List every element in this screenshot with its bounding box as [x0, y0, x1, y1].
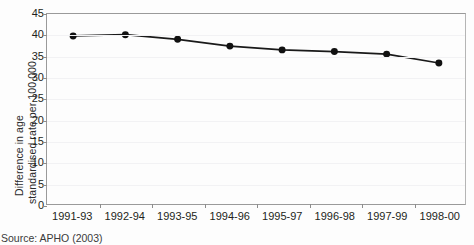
y-tick-mark — [43, 142, 47, 143]
y-tick-label: 25 — [0, 93, 44, 104]
y-tick-label: 15 — [0, 136, 44, 147]
x-tick-mark — [100, 204, 101, 208]
x-tick-label: 1995-97 — [262, 210, 302, 223]
x-tick-mark — [205, 204, 206, 208]
gridline — [47, 35, 465, 36]
x-tick-label: 1993-95 — [157, 210, 197, 223]
y-tick-mark — [43, 78, 47, 79]
chart-figure: Difference in age standardised rate per … — [0, 0, 474, 245]
x-tick-mark — [152, 204, 153, 208]
x-tick-label: 1991-93 — [52, 210, 92, 223]
x-tick-label: 1992-94 — [105, 210, 145, 223]
gridline — [47, 57, 465, 58]
data-point-marker — [279, 46, 286, 53]
data-point-marker — [435, 60, 442, 67]
y-tick-mark — [43, 99, 47, 100]
plot-area — [46, 13, 466, 205]
x-tick-label: 1994-96 — [210, 210, 250, 223]
y-tick-mark — [43, 185, 47, 186]
data-series-line — [47, 14, 465, 204]
y-tick-mark — [43, 121, 47, 122]
x-tick-mark — [310, 204, 311, 208]
data-point-marker — [331, 48, 338, 55]
x-tick-label: 1997-99 — [367, 210, 407, 223]
x-tick-label: 1996-98 — [315, 210, 355, 223]
x-tick-label: 1998-00 — [420, 210, 460, 223]
x-tick-mark — [257, 204, 258, 208]
gridline — [47, 121, 465, 122]
y-tick-label: 40 — [0, 29, 44, 40]
y-axis-tick-labels: 051015202530354045 — [0, 0, 44, 245]
gridline — [47, 163, 465, 164]
y-tick-label: 5 — [0, 178, 44, 189]
y-tick-label: 0 — [0, 200, 44, 211]
data-point-marker — [174, 36, 181, 43]
y-tick-label: 35 — [0, 50, 44, 61]
y-tick-mark — [43, 206, 47, 207]
source-caption: Source: APHO (2003) — [1, 232, 103, 244]
y-tick-label: 30 — [0, 72, 44, 83]
gridline — [47, 78, 465, 79]
y-tick-label: 45 — [0, 8, 44, 19]
data-point-marker — [226, 43, 233, 50]
y-tick-mark — [43, 35, 47, 36]
y-tick-mark — [43, 57, 47, 58]
gridline — [47, 142, 465, 143]
y-tick-label: 10 — [0, 157, 44, 168]
series-polyline — [73, 35, 439, 63]
x-tick-mark — [362, 204, 363, 208]
y-tick-label: 20 — [0, 114, 44, 125]
gridline — [47, 185, 465, 186]
x-axis-tick-labels: 1991-931992-941993-951994-961995-971996-… — [46, 210, 466, 230]
y-tick-mark — [43, 14, 47, 15]
x-tick-mark — [415, 204, 416, 208]
gridline — [47, 99, 465, 100]
y-tick-mark — [43, 163, 47, 164]
